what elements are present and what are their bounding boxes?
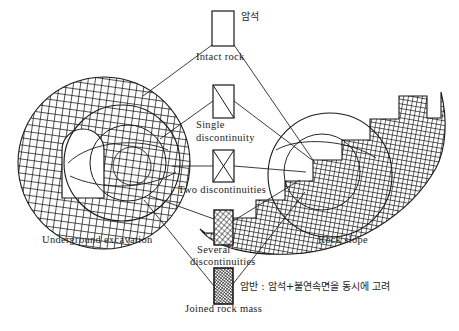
label-joined-rock-mass: Joined rock mass xyxy=(185,303,262,315)
label-intact-rock: Intact rock xyxy=(196,51,244,63)
label-intact-rock-korean: 암석 xyxy=(241,11,259,23)
label-underground-excavation: Underground excavation xyxy=(42,234,153,246)
label-rock-slope: Rock slope xyxy=(318,234,368,246)
sample-box-intact-rock xyxy=(212,11,234,46)
sample-box-single-discontinuity xyxy=(213,85,234,118)
figure-canvas: 암석 Intact rock Single discontinuity Two … xyxy=(0,0,459,331)
label-several-discontinuities-line2: discontinuities xyxy=(190,256,256,269)
sample-box-two-discontinuities xyxy=(213,150,234,182)
label-single-discontinuity-line1: Single xyxy=(196,119,225,132)
label-two-discontinuities: Two discontinuities xyxy=(178,184,266,196)
label-single-discontinuity-line2: discontinuity xyxy=(196,132,255,145)
sample-box-joined-rock-mass xyxy=(214,268,233,304)
label-joined-rock-mass-korean: 암반 : 암석+불연속면을 동시에 고려 xyxy=(240,281,390,293)
sample-box-several-discontinuities xyxy=(214,210,233,245)
label-several-discontinuities-line1: Several xyxy=(197,244,231,257)
